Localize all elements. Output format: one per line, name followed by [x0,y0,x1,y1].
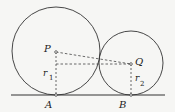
label-r1: r [43,68,48,78]
label-b: B [118,99,126,110]
point-p [55,51,58,54]
tangent-circles-diagram: P Q A B r 1 r 2 [0,0,175,112]
label-r2-sub: 2 [140,80,144,88]
label-p: P [43,43,51,54]
pq-segment [56,52,131,64]
point-q [130,63,133,66]
point-b [130,94,133,97]
label-q: Q [135,56,143,67]
label-r1-sub: 1 [49,74,53,82]
point-a [55,94,58,97]
label-a: A [44,99,52,110]
